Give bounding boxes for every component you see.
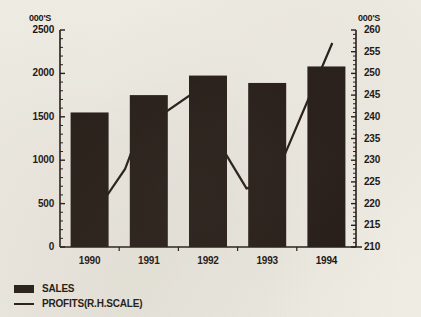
category-label-1991: 1991 [119,255,179,266]
right-tick-label: 255 [364,46,400,57]
left-tick-label: 500 [18,198,54,209]
right-tick-label: 230 [364,154,400,165]
left-tick-label: 2500 [18,24,54,35]
legend-label-profits: PROFITS(R.H.SCALE) [42,298,142,309]
left-tick-label: 2000 [18,67,54,78]
bars-group [71,66,346,247]
chart-plot-area [0,0,421,317]
left-tick-label: 1000 [18,154,54,165]
category-label-1992: 1992 [178,255,238,266]
right-tick-label: 245 [364,89,400,100]
left-tick-label: 0 [18,241,54,252]
right-tick-label: 240 [364,111,400,122]
category-label-1990: 1990 [60,255,120,266]
right-tick-label: 260 [364,24,400,35]
legend-label-sales: SALES [42,283,74,294]
bar-1991 [130,95,168,247]
right-tick-label: 215 [364,219,400,230]
legend-bar-swatch-icon [14,285,34,293]
legend-item-profits: PROFITS(R.H.SCALE) [14,296,142,311]
right-tick-label: 235 [364,133,400,144]
bar-1990 [71,112,109,247]
legend-line-swatch-icon [14,303,34,305]
left-tick-label: 1500 [18,111,54,122]
bar-1994 [307,66,345,247]
right-tick-label: 220 [364,198,400,209]
chart-legend: SALES PROFITS(R.H.SCALE) [14,281,142,311]
category-label-1994: 1994 [296,255,356,266]
category-label-1993: 1993 [237,255,297,266]
right-tick-label: 225 [364,176,400,187]
right-tick-label: 210 [364,241,400,252]
chart-container: 000'S 000'S 05001000150020002500 2102152… [0,0,421,317]
right-tick-label: 250 [364,67,400,78]
legend-item-sales: SALES [14,281,142,296]
